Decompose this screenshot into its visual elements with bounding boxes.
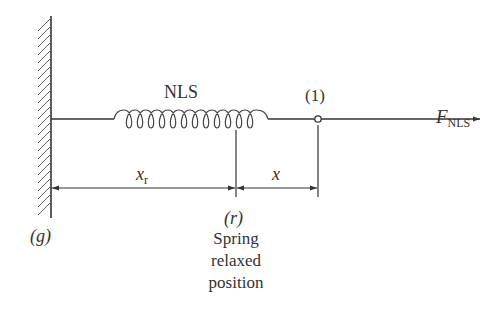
dimension-x-label: x bbox=[272, 164, 280, 185]
node-label: (1) bbox=[305, 86, 325, 106]
caption-line-3: position bbox=[196, 272, 276, 294]
force-label: FNLS bbox=[436, 106, 470, 128]
spring-coil bbox=[114, 110, 268, 128]
caption-line-2: relaxed bbox=[196, 250, 276, 272]
force-subscript: NLS bbox=[448, 116, 471, 130]
spring-label: NLS bbox=[164, 82, 198, 103]
ground-label: (g) bbox=[30, 226, 51, 247]
dimension-xr-label: xr bbox=[136, 164, 148, 185]
xr-symbol: x bbox=[136, 164, 144, 184]
force-symbol: F bbox=[436, 106, 448, 127]
ground-wall bbox=[38, 16, 51, 218]
caption-line-1: Spring bbox=[196, 228, 276, 250]
relaxed-label: (r) bbox=[224, 208, 243, 229]
xr-subscript: r bbox=[144, 173, 148, 187]
node-1 bbox=[315, 116, 321, 122]
relaxed-caption: Spring relaxed position bbox=[196, 228, 276, 294]
